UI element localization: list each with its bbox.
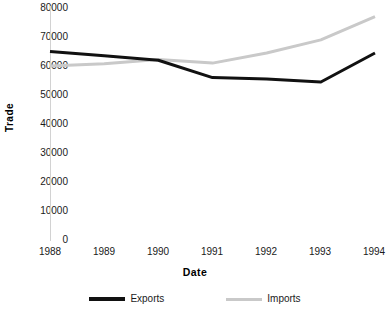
x-tick-label: 1992 [242,246,290,257]
x-tick-label: 1990 [134,246,182,257]
series-line-exports [50,52,375,82]
x-tick-label: 1991 [188,246,236,257]
legend-swatch-exports [89,297,125,301]
legend-label-exports: Exports [130,294,164,304]
x-tick-label: 1989 [80,246,128,257]
legend-item-imports: Imports [226,294,300,304]
series-line-imports [50,17,375,66]
legend-swatch-imports [226,298,262,301]
x-tick-label: 1988 [26,246,74,257]
x-tick-label: 1994 [350,246,390,257]
y-axis-title: Trade [4,88,15,148]
legend-item-exports: Exports [89,294,164,304]
x-tick-label: 1993 [296,246,344,257]
chart-legend: Exports Imports [0,294,390,304]
legend-label-imports: Imports [267,294,300,304]
trade-line-chart: 80000 70000 60000 50000 40000 30000 2000… [0,0,390,316]
x-axis-title: Date [0,266,390,278]
